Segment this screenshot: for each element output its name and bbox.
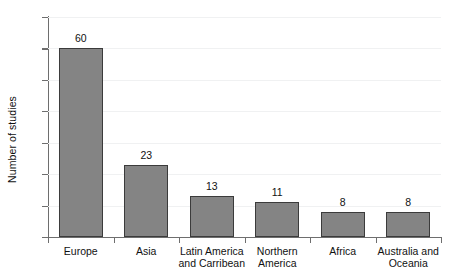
x-tick-mark-2	[179, 238, 180, 243]
bar	[255, 202, 299, 237]
bar	[321, 212, 365, 237]
gridline-20	[48, 174, 441, 175]
x-tick-mark-4	[310, 238, 311, 243]
bar	[190, 196, 234, 237]
x-tick-mark-1	[114, 238, 115, 243]
bar-value-label: 23	[116, 150, 176, 161]
category-label-line: Australia and	[370, 246, 448, 258]
bar-value-label: 60	[51, 33, 111, 44]
x-tick-mark-3	[245, 238, 246, 243]
bar-value-label: 8	[378, 197, 438, 208]
gridline-60	[48, 48, 441, 49]
bar-chart: Number of studies 010203040506070 602313…	[0, 0, 450, 279]
bar	[386, 212, 430, 237]
gridline-40	[48, 111, 441, 112]
x-tick-mark-6	[441, 238, 442, 243]
bar-value-label: 13	[182, 181, 242, 192]
bar	[124, 165, 168, 237]
category-label-line: America	[239, 258, 317, 270]
gridline-50	[48, 80, 441, 81]
category-label-line: Oceania	[370, 258, 448, 270]
y-axis-title: Number of studies	[0, 0, 24, 279]
bar-value-label: 8	[313, 197, 373, 208]
x-tick-mark-5	[376, 238, 377, 243]
gridline-30	[48, 143, 441, 144]
gridline-70	[48, 17, 441, 18]
x-tick-mark-0	[48, 238, 49, 243]
bar-value-label: 11	[247, 187, 307, 198]
bar	[59, 48, 103, 237]
category-label: Australia andOceania	[370, 246, 448, 269]
